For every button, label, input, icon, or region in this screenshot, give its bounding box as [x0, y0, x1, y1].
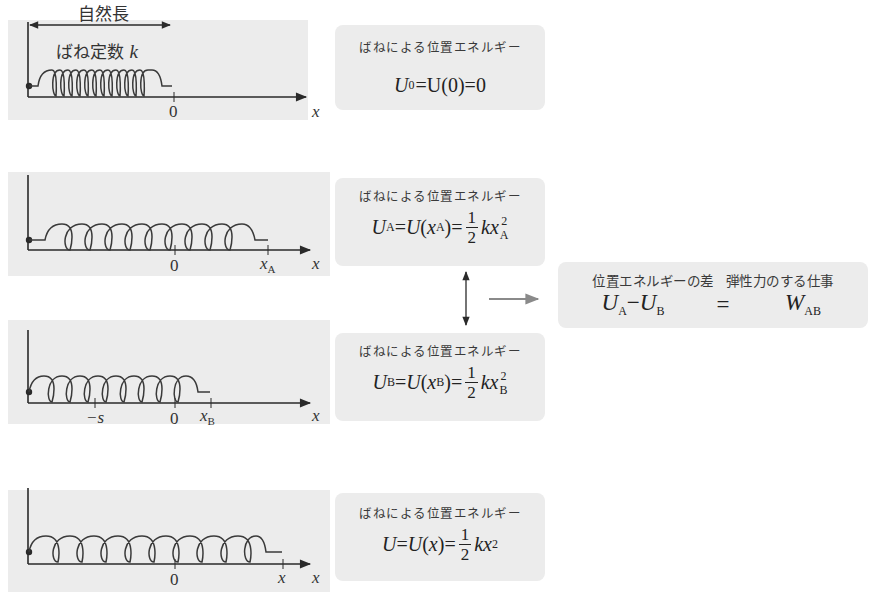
axis-label-x-4: x: [312, 568, 320, 588]
energy-caption: ばねによる位置エネルギー: [335, 503, 545, 522]
tick-xb: xB: [200, 406, 215, 427]
fraction-half: 12: [466, 209, 479, 246]
summary-captions: 位置エネルギーの差 弾性力のする仕事: [558, 270, 868, 290]
axis-label-x-1: x: [312, 102, 320, 122]
energy-caption: ばねによる位置エネルギー: [335, 37, 545, 56]
spring-general-x: [29, 536, 282, 562]
fraction-half: 12: [465, 364, 478, 401]
axis-label-x-2: x: [312, 254, 320, 274]
tick-xa: xA: [260, 254, 276, 275]
elastic-work-caption: 弾性力のする仕事: [726, 270, 834, 290]
energy-equation-a: UA=U(xA)= 12 kx 2A: [372, 209, 509, 246]
tick-zero-2: 0: [170, 256, 179, 276]
wall-and-axis-4: [28, 488, 310, 569]
energy-equation-general: U=U(x)= 12 kx2: [382, 526, 498, 563]
fraction-half: 12: [459, 526, 472, 563]
energy-equation-natural: U0 =U(0)=0: [394, 74, 486, 97]
summary-equation: UA−UB = WAB: [558, 290, 868, 319]
natural-length-label: 自然長: [78, 0, 129, 25]
tick-zero-3: 0: [170, 409, 179, 429]
energy-caption: ばねによる位置エネルギー: [335, 341, 545, 360]
energy-box-b: ばねによる位置エネルギー UB=U(xB)= 12 kx 2B: [335, 333, 545, 421]
potential-difference-caption: 位置エネルギーの差: [592, 270, 714, 290]
tick-zero-1: 0: [169, 102, 178, 122]
energy-caption: ばねによる位置エネルギー: [335, 186, 545, 205]
spring-natural: [29, 70, 172, 96]
energy-box-general: ばねによる位置エネルギー U=U(x)= 12 kx2: [335, 493, 545, 581]
wall-and-axis-2: [28, 175, 310, 255]
tick-x: x: [278, 568, 286, 588]
energy-box-natural: ばねによる位置エネルギー U0 =U(0)=0: [335, 25, 545, 110]
tick-zero-4: 0: [170, 570, 179, 590]
spring-stretched-a: [29, 224, 268, 250]
tick-minus-s: −s: [86, 408, 104, 428]
energy-equation-b: UB=U(xB)= 12 kx 2B: [372, 364, 507, 401]
energy-box-a: ばねによる位置エネルギー UA=U(xA)= 12 kx 2A: [335, 178, 545, 266]
wall-and-axis-3: [28, 330, 310, 408]
summary-box: 位置エネルギーの差 弾性力のする仕事 UA−UB = WAB: [558, 262, 868, 328]
spring-constant-label: ばね定数 k: [56, 38, 138, 63]
axis-label-x-3: x: [312, 406, 320, 426]
spring-compressed-b: [29, 376, 210, 402]
